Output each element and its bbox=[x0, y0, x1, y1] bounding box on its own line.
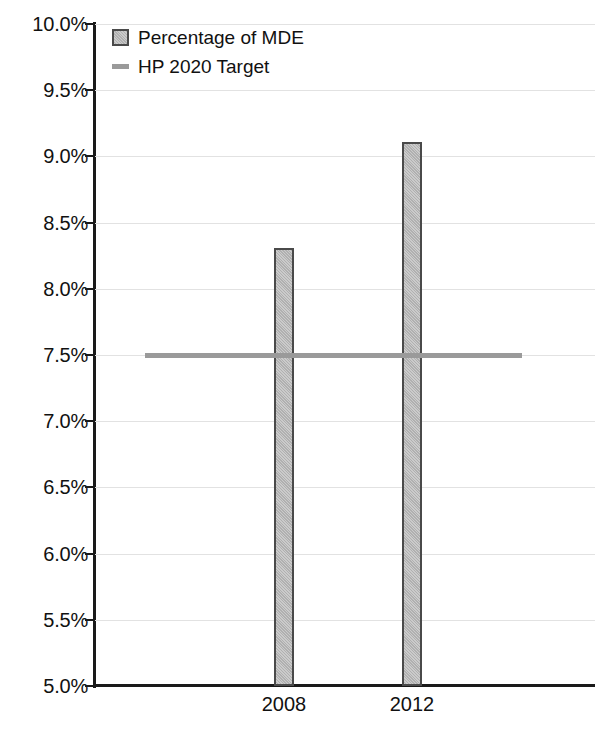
gridline bbox=[95, 90, 595, 91]
y-axis-tick-mark bbox=[85, 486, 94, 488]
y-axis-tick-label: 7.5% bbox=[2, 345, 88, 365]
y-axis-tick-mark bbox=[85, 354, 94, 356]
legend-item-label: HP 2020 Target bbox=[138, 56, 269, 77]
bar bbox=[402, 142, 422, 686]
gridline bbox=[95, 620, 595, 621]
x-axis-tick-label: 2008 bbox=[224, 692, 344, 716]
gridline bbox=[95, 487, 595, 488]
x-axis-tick-label: 2012 bbox=[352, 692, 472, 716]
hp-2020-target-line bbox=[145, 353, 522, 358]
bar-chart: 10.0%9.5%9.0%8.5%8.0%7.5%7.0%6.5%6.0%5.5… bbox=[0, 0, 595, 730]
y-axis-tick-mark bbox=[85, 222, 94, 224]
y-axis-tick-mark bbox=[85, 619, 94, 621]
chart-legend: Percentage of MDE HP 2020 Target bbox=[112, 26, 304, 77]
y-axis-tick-label: 8.0% bbox=[2, 279, 88, 299]
gridline bbox=[95, 156, 595, 157]
legend-item-label: Percentage of MDE bbox=[138, 27, 304, 48]
y-axis-tick-label: 9.0% bbox=[2, 146, 88, 166]
y-axis-tick-label: 6.5% bbox=[2, 477, 88, 497]
y-axis-tick-label: 10.0% bbox=[2, 14, 88, 34]
y-axis-tick-mark bbox=[85, 23, 94, 25]
legend-square-swatch-icon bbox=[112, 29, 129, 46]
plot-area bbox=[95, 24, 595, 686]
gridline bbox=[95, 554, 595, 555]
y-axis-tick-label: 6.0% bbox=[2, 544, 88, 564]
legend-item-percentage-of-mde: Percentage of MDE bbox=[112, 26, 304, 48]
y-axis-tick-label: 7.0% bbox=[2, 411, 88, 431]
y-axis-tick-label: 8.5% bbox=[2, 213, 88, 233]
legend-line-swatch-icon bbox=[112, 58, 129, 75]
y-axis-tick-mark bbox=[85, 685, 94, 687]
y-axis-tick-mark bbox=[85, 420, 94, 422]
gridline bbox=[95, 421, 595, 422]
gridline bbox=[95, 289, 595, 290]
legend-item-hp-2020-target: HP 2020 Target bbox=[112, 55, 304, 77]
y-axis-tick-mark bbox=[85, 89, 94, 91]
y-axis-tick-mark bbox=[85, 288, 94, 290]
y-axis-tick-mark bbox=[85, 553, 94, 555]
gridline bbox=[95, 24, 595, 25]
y-axis-tick-label: 9.5% bbox=[2, 80, 88, 100]
y-axis-tick-label: 5.0% bbox=[2, 676, 88, 696]
gridline bbox=[95, 223, 595, 224]
y-axis-tick-mark bbox=[85, 155, 94, 157]
y-axis-tick-label: 5.5% bbox=[2, 610, 88, 630]
bar bbox=[274, 248, 294, 686]
